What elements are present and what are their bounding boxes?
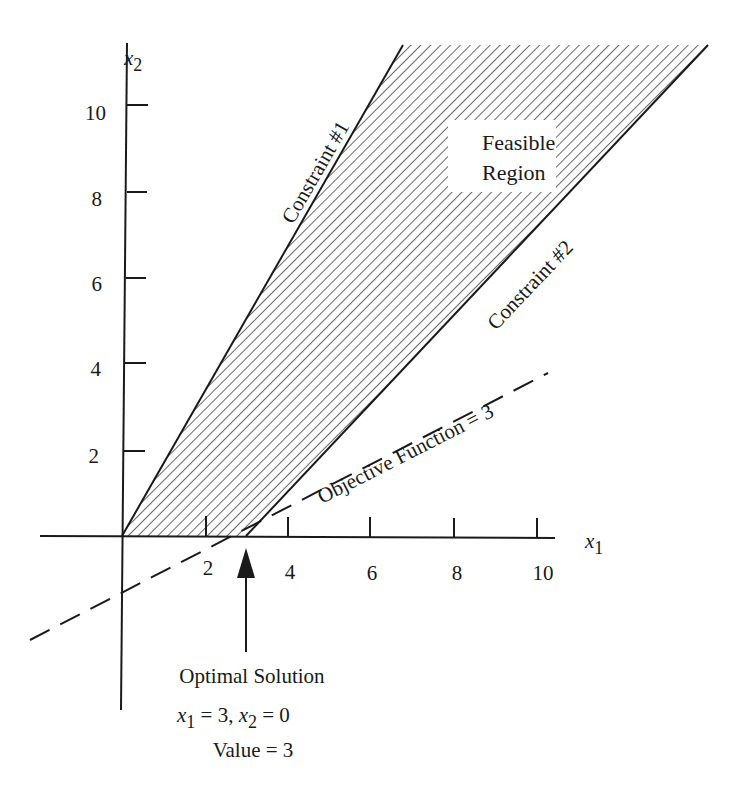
x-tick-labels: 2 4 6 8 10 xyxy=(203,556,554,585)
feasible-region-label-line2: Region xyxy=(482,160,546,185)
y-axis xyxy=(121,43,127,710)
optimal-arrow-head-icon xyxy=(237,548,255,578)
x-axis xyxy=(40,536,555,538)
optimal-solution-values: x1 = 3, x2 = 0 xyxy=(176,703,290,732)
y-tick-label: 2 xyxy=(89,444,100,468)
y-tick-label: 8 xyxy=(92,187,103,211)
linear-programming-diagram: 2 4 6 8 10 10 8 6 4 2 x2 x1 Constraint #… xyxy=(0,0,746,801)
y-tick-label: 6 xyxy=(92,272,103,296)
y-tick-label: 10 xyxy=(85,101,106,125)
y-axis-ticks xyxy=(124,105,148,451)
feasible-region-label-line1: Feasible xyxy=(482,130,555,155)
x-tick-label: 2 xyxy=(203,556,214,580)
feasible-region xyxy=(122,45,708,536)
x-tick-label: 4 xyxy=(285,560,296,584)
y-tick-labels: 10 8 6 4 2 xyxy=(85,101,106,468)
x-tick-label: 10 xyxy=(533,561,554,585)
x-tick-label: 6 xyxy=(367,561,378,585)
y-tick-label: 4 xyxy=(91,357,102,381)
x-axis-title: x1 xyxy=(584,529,603,558)
optimal-solution-value: Value = 3 xyxy=(213,738,294,762)
x-tick-label: 8 xyxy=(452,561,463,585)
optimal-solution-title: Optimal Solution xyxy=(179,664,325,688)
